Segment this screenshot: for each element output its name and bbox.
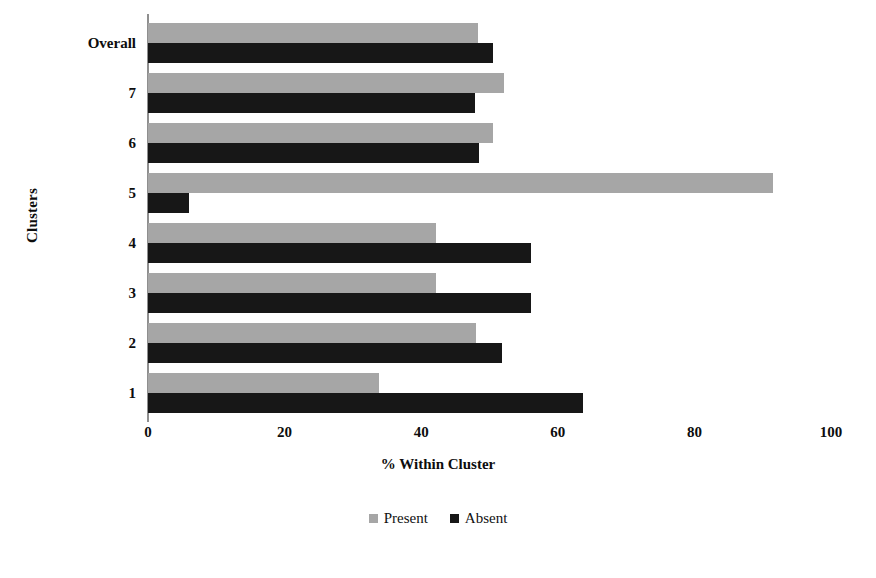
y-tick-label: 5 — [129, 185, 137, 202]
bar-group — [148, 368, 831, 418]
y-tick-label: 4 — [129, 235, 137, 252]
bar-absent — [148, 193, 189, 213]
bar-group — [148, 318, 831, 368]
bar-chart: Clusters 1234567Overall 020406080100 % W… — [0, 0, 876, 578]
x-tick-label: 40 — [414, 424, 429, 441]
bar-absent — [148, 143, 479, 163]
legend-label: Present — [384, 510, 428, 527]
bar-present — [148, 73, 504, 93]
legend-label: Absent — [465, 510, 508, 527]
bar-absent — [148, 93, 475, 113]
bar-present — [148, 323, 476, 343]
bar-group — [148, 268, 831, 318]
absent-swatch-icon — [450, 514, 459, 523]
bar-absent — [148, 343, 502, 363]
bar-present — [148, 23, 478, 43]
bar-group — [148, 68, 831, 118]
x-tick-label: 80 — [687, 424, 702, 441]
bar-present — [148, 223, 436, 243]
bar-present — [148, 173, 773, 193]
bar-absent — [148, 243, 531, 263]
bar-present — [148, 273, 436, 293]
x-tick-label: 100 — [820, 424, 843, 441]
x-axis-tick-labels: 020406080100 — [148, 424, 831, 446]
y-tick-label: 3 — [129, 285, 137, 302]
y-tick-label: 1 — [129, 385, 137, 402]
x-axis-title: % Within Cluster — [0, 456, 876, 473]
y-axis-title-text: Clusters — [24, 188, 41, 243]
plot-area — [148, 18, 831, 418]
bar-present — [148, 123, 493, 143]
y-tick-label: 6 — [129, 135, 137, 152]
bar-present — [148, 373, 379, 393]
bar-absent — [148, 393, 583, 413]
chart-legend: PresentAbsent — [0, 510, 876, 527]
x-tick-label: 0 — [144, 424, 152, 441]
y-tick-label: 2 — [129, 335, 137, 352]
bar-absent — [148, 293, 531, 313]
y-tick-label: 7 — [129, 85, 137, 102]
legend-item-present[interactable]: Present — [369, 510, 428, 527]
y-tick-label: Overall — [88, 35, 136, 52]
present-swatch-icon — [369, 514, 378, 523]
x-tick-label: 60 — [550, 424, 565, 441]
bar-group — [148, 168, 831, 218]
x-tick-label: 20 — [277, 424, 292, 441]
legend-item-absent[interactable]: Absent — [450, 510, 508, 527]
bar-group — [148, 18, 831, 68]
y-axis-tick-labels: 1234567Overall — [48, 18, 142, 418]
bar-group — [148, 118, 831, 168]
bar-absent — [148, 43, 493, 63]
bar-group — [148, 218, 831, 268]
